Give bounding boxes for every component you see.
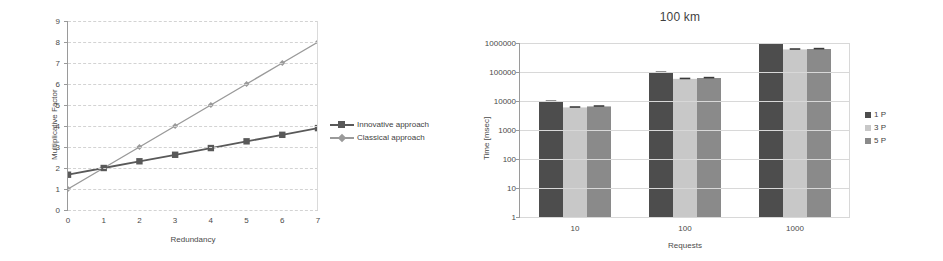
right-chart-gridline-10 <box>520 188 850 189</box>
left-chart-y-axis-line <box>67 21 68 211</box>
multiplicative-factor-line-chart: Multiplicative Factor 9 8 7 6 5 4 3 2 1 … <box>0 0 460 261</box>
left-chart-x-tick-3: 3 <box>165 216 185 225</box>
right-chart-y-tick-100: 100 <box>460 155 516 164</box>
left-chart-gridline-8 <box>68 42 318 43</box>
left-chart-x-tick-7: 7 <box>308 216 328 225</box>
right-chart-gridline-100000 <box>520 72 850 73</box>
legend-label-3p: 3 P <box>874 123 886 132</box>
data-point-marker <box>136 158 142 164</box>
left-chart-y-tickmark-6 <box>64 84 67 85</box>
left-chart-gridline-4 <box>68 126 318 127</box>
left-chart-y-tickmark-7 <box>64 63 67 64</box>
bar <box>563 107 587 217</box>
bar-cap-marker <box>570 106 581 108</box>
left-chart-y-tickmark-3 <box>64 147 67 148</box>
right-chart-legend: 1 P 3 P 5 P <box>865 108 886 147</box>
right-chart-right-border <box>849 43 850 217</box>
left-chart-gridline-9 <box>68 21 318 22</box>
data-point-marker <box>68 172 71 178</box>
right-chart-y-tickmark-1000000 <box>516 43 519 44</box>
legend-swatch-5p-icon <box>865 138 871 144</box>
bar <box>697 78 721 217</box>
left-chart-plot-area <box>68 21 318 210</box>
legend-item-innovative-approach[interactable]: Innovative approach <box>330 118 429 131</box>
left-chart-y-tick-0: 0 <box>48 206 60 215</box>
right-chart-y-tick-1000: 1000 <box>460 126 516 135</box>
right-chart-gridline-100 <box>520 159 850 160</box>
data-point-marker <box>172 152 178 158</box>
legend-item-1p[interactable]: 1 P <box>865 108 886 121</box>
legend-item-classical-approach[interactable]: Classical approach <box>330 131 429 144</box>
time-vs-requests-bar-chart: 100 km Time [msec] 1000000 100000 10000 … <box>460 0 943 261</box>
right-chart-y-tick-1: 1 <box>460 213 516 222</box>
right-chart-y-tick-10000: 10000 <box>460 97 516 106</box>
left-chart-gridline-7 <box>68 63 318 64</box>
left-chart-y-tick-8: 8 <box>48 38 60 47</box>
bar-cap-marker <box>680 78 691 80</box>
legend-label-5p: 5 P <box>874 136 886 145</box>
legend-item-5p[interactable]: 5 P <box>865 134 886 147</box>
right-chart-y-tick-1000000: 1000000 <box>460 39 516 48</box>
right-chart-gridline-1000 <box>520 130 850 131</box>
left-chart-y-tick-6: 6 <box>48 80 60 89</box>
line-marker-square-icon <box>330 120 354 129</box>
bar <box>783 49 807 217</box>
figure-row: Multiplicative Factor 9 8 7 6 5 4 3 2 1 … <box>0 0 943 261</box>
right-chart-y-tick-100000: 100000 <box>460 68 516 77</box>
right-chart-y-tickmark-10000 <box>516 101 519 102</box>
right-chart-y-tick-10: 10 <box>460 184 516 193</box>
right-chart-y-tickmark-1 <box>516 217 519 218</box>
bar <box>807 49 831 217</box>
left-chart-y-tickmark-9 <box>64 21 67 22</box>
left-chart-gridline-2 <box>68 168 318 169</box>
right-chart-y-tickmark-100000 <box>516 72 519 73</box>
right-chart-x-tick-100: 100 <box>645 224 725 233</box>
bar-cap-marker <box>814 48 825 50</box>
right-chart-gridline-1000000 <box>520 43 850 44</box>
left-chart-series-layer <box>68 21 318 210</box>
left-chart-y-tick-9: 9 <box>48 17 60 26</box>
left-chart-x-tick-1: 1 <box>94 216 114 225</box>
bar-cap-marker <box>594 105 605 107</box>
bar <box>649 73 673 217</box>
right-chart-x-tick-1000: 1000 <box>755 224 835 233</box>
left-chart-y-tickmark-2 <box>64 168 67 169</box>
left-chart-x-tick-6: 6 <box>272 216 292 225</box>
bar <box>587 106 611 217</box>
legend-label-classical-approach: Classical approach <box>357 133 425 142</box>
left-chart-y-tickmark-8 <box>64 42 67 43</box>
bar-cap-marker <box>704 77 715 79</box>
left-chart-y-tickmark-1 <box>64 189 67 190</box>
right-chart-y-axis-title: Time [msec] <box>482 117 491 160</box>
line-marker-diamond-icon <box>330 133 354 142</box>
left-chart-y-tick-4: 4 <box>48 122 60 131</box>
left-chart-x-tick-5: 5 <box>237 216 257 225</box>
left-chart-y-tickmark-5 <box>64 105 67 106</box>
data-point-marker <box>243 138 249 144</box>
legend-label-innovative-approach: Innovative approach <box>357 120 429 129</box>
bar-cap-marker <box>790 48 801 50</box>
left-chart-x-tick-0: 0 <box>58 216 78 225</box>
left-chart-right-border <box>317 21 318 210</box>
legend-item-3p[interactable]: 3 P <box>865 121 886 134</box>
right-chart-y-tickmark-1000 <box>516 130 519 131</box>
right-chart-y-axis-line <box>519 43 520 218</box>
right-chart-plot-area <box>520 43 850 217</box>
data-point-marker <box>279 132 285 138</box>
right-chart-gridline-10000 <box>520 101 850 102</box>
left-chart-y-tick-3: 3 <box>48 143 60 152</box>
legend-swatch-1p-icon <box>865 112 871 118</box>
left-chart-y-tickmark-0 <box>64 210 67 211</box>
bar <box>673 79 697 217</box>
left-chart-x-axis-title: Redundancy <box>143 235 243 244</box>
left-chart-gridline-0 <box>68 210 318 211</box>
right-chart-y-tickmark-10 <box>516 188 519 189</box>
left-chart-y-tick-1: 1 <box>48 185 60 194</box>
left-chart-legend: Innovative approach Classical approach <box>330 118 429 144</box>
legend-label-1p: 1 P <box>874 110 886 119</box>
right-chart-y-tickmark-100 <box>516 159 519 160</box>
left-chart-gridline-6 <box>68 84 318 85</box>
left-chart-x-tick-4: 4 <box>201 216 221 225</box>
left-chart-gridline-1 <box>68 189 318 190</box>
right-chart-gridline-1 <box>520 217 850 218</box>
